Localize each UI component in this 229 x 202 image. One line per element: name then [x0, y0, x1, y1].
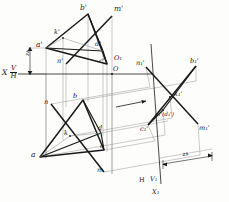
label-d: d: [98, 125, 102, 132]
label-n-prime: n': [57, 58, 63, 65]
h-line-mn: [51, 104, 104, 172]
label-origin-o1: O₁: [114, 55, 122, 62]
label-origin-o: O: [113, 66, 118, 73]
dot-k-prime: [62, 37, 64, 39]
label-d-prime: d': [95, 41, 101, 48]
dot-origin: [111, 73, 113, 75]
h-triangle-abc-path: [40, 100, 104, 157]
label-m: m: [97, 167, 103, 174]
label-dimension-za-auxiliary: zᴀ: [182, 151, 189, 157]
label-m-prime: m': [114, 5, 123, 13]
dot-k: [69, 135, 71, 137]
dot-k1-prime: [169, 96, 171, 98]
h-projection-triangle-abc: [40, 100, 104, 157]
label-dimension-za-vertical: zᴀ: [25, 50, 31, 56]
aux-drop-c: [148, 125, 155, 141]
label-m1-prime: m₁': [199, 125, 210, 132]
figure-canvas: b' m' k' a' d' n' c' n b k d c a m n₁' b…: [0, 0, 229, 202]
label-n: n: [44, 99, 48, 106]
label-aux-h: H: [139, 177, 145, 184]
projection-drawing: [0, 0, 229, 202]
h-projection-line-mn: [51, 104, 104, 172]
label-aux-v1: V₁: [150, 176, 157, 183]
label-b: b: [73, 93, 77, 100]
label-b-prime: b': [80, 4, 87, 12]
label-k-prime: k': [54, 29, 60, 36]
view-direction-arrow: [116, 101, 146, 107]
v-thin-ak: [46, 38, 63, 48]
label-k: k: [64, 130, 68, 137]
label-c-prime: c': [99, 58, 104, 65]
label-c: c: [100, 143, 104, 150]
label-a: a: [31, 151, 35, 159]
label-axis-x: X: [2, 69, 7, 77]
label-n1-prime: n₁': [136, 60, 145, 67]
transfer-d: [101, 121, 168, 133]
label-a-prime: a': [36, 41, 43, 49]
label-aux-x1: X₁: [152, 189, 159, 196]
label-axis-h: H: [10, 73, 17, 80]
transfer-c: [104, 141, 155, 150]
label-axis-v-over-h: V H: [10, 65, 17, 79]
label-c1-prime: c₁': [140, 126, 148, 133]
label-k1-prime: k₁': [174, 91, 182, 98]
label-b1-prime: b₁': [190, 58, 199, 65]
label-a1-d1-prime: a₁'(d₁'): [155, 112, 174, 118]
transfer-m: [104, 155, 200, 172]
